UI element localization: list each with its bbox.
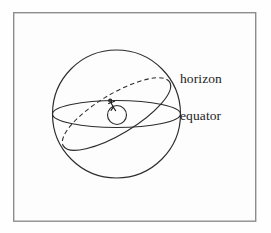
celestial-sphere-diagram: horizon equator [0, 0, 271, 233]
equator-label: equator [180, 108, 222, 123]
horizon-label: horizon [180, 71, 222, 86]
figure-container: horizon equator [0, 0, 271, 233]
